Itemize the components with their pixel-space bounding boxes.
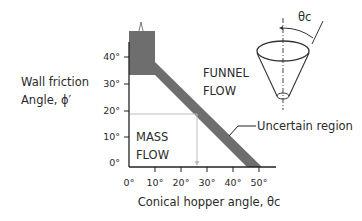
hopper-cone-icon: θc <box>257 10 323 110</box>
mass-flow-label-line2: FLOW <box>136 148 169 162</box>
y-axis-title-line2: Angle, ϕ′ <box>21 93 72 107</box>
theta-c-label: θc <box>298 10 311 24</box>
y-tick-0: 0° <box>109 157 120 168</box>
axis-break-icon <box>139 22 143 31</box>
y-tick-20: 20° <box>103 105 120 116</box>
uncertain-region-callout: Uncertain region <box>229 119 353 136</box>
x-tick-30: 30° <box>199 177 216 188</box>
x-axis-title: Conical hopper angle, θc <box>138 195 281 209</box>
mass-flow-label-line1: MASS <box>136 130 168 144</box>
x-tick-labels: 0° 10° 20° 30° 40° 50° <box>124 177 268 188</box>
y-tick-40: 40° <box>103 51 120 62</box>
x-tick-20: 20° <box>173 177 190 188</box>
y-axis-title-line1: Wall friction <box>21 75 89 89</box>
x-tick-0: 0° <box>124 177 135 188</box>
hopper-flow-chart: 40° 30° 20° 10° 0° 0° 10° 20° 30° 40° 50… <box>0 0 362 221</box>
uncertain-region-label: Uncertain region <box>257 119 353 133</box>
y-tick-10: 10° <box>103 131 120 142</box>
y-tick-labels: 40° 30° 20° 10° 0° <box>103 51 120 168</box>
funnel-flow-label-line1: FUNNEL <box>203 66 250 80</box>
y-tick-30: 30° <box>103 78 120 89</box>
x-tick-10: 10° <box>147 177 164 188</box>
uncertain-region <box>129 22 262 167</box>
x-tick-50: 50° <box>251 177 268 188</box>
x-tick-40: 40° <box>225 177 242 188</box>
funnel-flow-label-line2: FLOW <box>203 84 236 98</box>
